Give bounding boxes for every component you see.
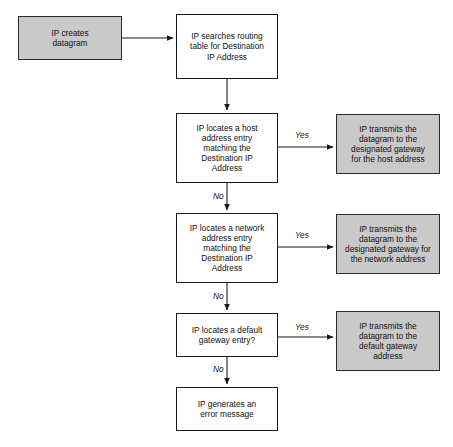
node-locate-host-entry: IP locates a host address entry matching… — [176, 113, 278, 183]
node-search-routing-table: IP searches routing table for Destinatio… — [176, 14, 278, 79]
node-create-datagram-label: IP creates datagram — [51, 28, 88, 48]
node-locate-default-gateway: IP locates a default gateway entry? — [176, 313, 278, 357]
node-transmit-host-gateway: IP transmits the datagram to the designa… — [336, 114, 440, 174]
node-transmit-host-gateway-label: IP transmits the datagram to the designa… — [351, 124, 425, 164]
node-locate-default-gateway-label: IP locates a default gateway entry? — [192, 325, 262, 345]
node-create-datagram: IP creates datagram — [18, 16, 122, 60]
edge-label-no-host: No — [213, 191, 224, 201]
edge-label-yes-host: Yes — [295, 130, 309, 140]
node-error-message-label: IP generates an error message — [198, 399, 256, 419]
node-error-message: IP generates an error message — [176, 387, 278, 431]
node-locate-host-entry-label: IP locates a host address entry matching… — [196, 123, 257, 174]
node-locate-network-entry: IP locates a network address entry match… — [176, 213, 278, 283]
node-transmit-network-gateway-label: IP transmits the datagram to the designa… — [345, 224, 431, 264]
edge-label-yes-default: Yes — [295, 322, 309, 332]
node-search-routing-table-label: IP searches routing table for Destinatio… — [190, 31, 264, 61]
edge-label-yes-network: Yes — [295, 230, 309, 240]
node-locate-network-entry-label: IP locates a network address entry match… — [190, 223, 265, 274]
edge-label-no-network: No — [213, 291, 224, 301]
node-transmit-default-gateway-label: IP transmits the datagram to the default… — [359, 321, 417, 361]
edge-label-no-default: No — [213, 364, 224, 374]
ip-routing-flowchart: IP creates datagram IP searches routing … — [0, 0, 453, 447]
node-transmit-default-gateway: IP transmits the datagram to the default… — [336, 311, 440, 371]
node-transmit-network-gateway: IP transmits the datagram to the designa… — [336, 214, 440, 274]
